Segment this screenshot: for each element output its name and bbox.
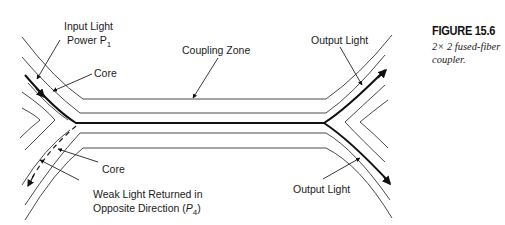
upper-fiber-inner-edge <box>22 55 385 113</box>
label-weak-light-var: P <box>186 202 193 214</box>
label-weak-light-line1: Weak Light Returned in <box>93 188 203 200</box>
label-core-bottom: Core <box>102 163 125 175</box>
figure-caption-text: 2× 2 fused-fiber coupler. <box>432 40 505 66</box>
label-weak-light-line2: Opposite Direction (P4) <box>93 202 201 217</box>
leader-coupling-zone <box>193 58 218 98</box>
label-input-light-sub: 1 <box>107 40 112 49</box>
label-coupling-zone: Coupling Zone <box>182 44 250 56</box>
left-inner-upper-line <box>28 83 68 120</box>
leader-core-top <box>53 74 92 91</box>
weak-return-arrow <box>28 175 34 186</box>
figure-number: FIGURE 15.6 <box>432 24 498 38</box>
label-input-light-line1: Input Light <box>64 20 113 32</box>
leader-core-bottom <box>58 149 98 162</box>
right-upper-cladding <box>345 85 385 162</box>
label-input-light-line2: Power P1 <box>67 34 112 49</box>
output-light-arrow-lower <box>384 177 390 184</box>
label-output-light-top: Output Light <box>311 34 368 46</box>
fused-fiber-coupler-diagram: Input Light Power P1 Core Coupling Zone … <box>0 0 505 225</box>
right-outer-cladding <box>360 100 388 148</box>
label-weak-light-close: ) <box>197 202 201 214</box>
label-input-light-power: Power P <box>67 34 107 46</box>
label-core-top: Core <box>94 67 117 79</box>
label-output-light-bottom: Output Light <box>293 183 350 195</box>
leader-weak-light <box>40 160 79 180</box>
label-weak-light-direction: Opposite Direction ( <box>93 202 186 214</box>
weak-return-dashed-path <box>32 126 76 178</box>
left-outer-cladding <box>20 108 40 138</box>
output-light-arrow-upper <box>378 70 386 78</box>
figure-caption: FIGURE 15.6 2× 2 fused-fiber coupler. <box>432 24 505 66</box>
